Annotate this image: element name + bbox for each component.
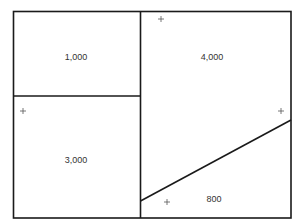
plus-marker-icon <box>278 108 284 114</box>
plus-marker-icon <box>158 16 164 22</box>
plus-marker-icon <box>164 199 170 205</box>
region-label-bottom-right: 800 <box>206 194 221 204</box>
partition-diagram <box>0 0 299 223</box>
region-label-bottom-left: 3,000 <box>65 155 88 165</box>
outer-frame <box>14 12 292 219</box>
region-label-top-right: 4,000 <box>201 52 224 62</box>
region-label-top-left: 1,000 <box>65 52 88 62</box>
diagonal-divider <box>141 120 292 201</box>
plus-marker-icon <box>20 108 26 114</box>
plus-markers <box>20 16 284 205</box>
